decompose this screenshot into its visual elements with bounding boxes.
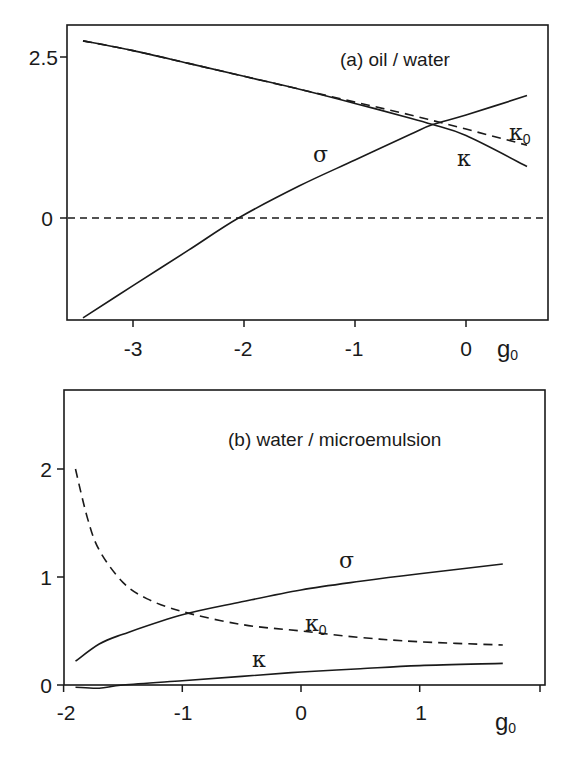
- panel-b-xtick-0: 0: [295, 701, 307, 724]
- panel-b-sigma-label: σ: [339, 548, 354, 573]
- panel-a-sigma-label: σ: [313, 142, 328, 167]
- panel-a: 2.5 0 -3 -2 -1 0 g0 (a) oil / water σ κ …: [29, 25, 548, 363]
- panel-b-ytick-1: 1: [40, 566, 52, 589]
- panel-b-xtick-1: 1: [415, 701, 427, 724]
- panel-b-xtick-neg1: -1: [174, 701, 193, 724]
- panel-a-kappa0-label: κ0: [509, 120, 531, 147]
- panel-b-axis-ticks: [57, 469, 540, 692]
- panel-b-curves: [76, 469, 503, 688]
- panel-a-xtick-neg1: -1: [345, 337, 364, 360]
- panel-a-ytick-2.5: 2.5: [29, 46, 58, 69]
- panel-b-xlabel: g0: [495, 708, 516, 736]
- panel-a-title: (a) oil / water: [340, 49, 450, 70]
- panel-a-curves: [68, 41, 547, 318]
- panel-a-ytick-0: 0: [41, 207, 53, 230]
- panel-a-axis-ticks: [60, 57, 466, 327]
- panel-b-kappa-label: κ: [252, 647, 266, 672]
- series-kappa0-line: [76, 469, 503, 645]
- panel-b-ytick-2: 2: [40, 458, 52, 481]
- figure: 2.5 0 -3 -2 -1 0 g0 (a) oil / water σ κ …: [0, 0, 574, 771]
- panel-a-frame: [67, 25, 548, 320]
- series-sigma-line: [76, 564, 503, 661]
- panel-b: 2 1 0 -2 -1 0 1 g0 (b) water / microemul…: [40, 390, 545, 736]
- panel-b-title: (b) water / microemulsion: [228, 429, 441, 450]
- panel-a-xlabel: g0: [497, 335, 518, 363]
- panel-b-kappa0-label: κ0: [305, 611, 327, 638]
- panel-a-kappa-label: κ: [457, 146, 471, 171]
- panel-a-xtick-neg3: -3: [124, 337, 143, 360]
- series-sigma-line: [83, 96, 527, 318]
- panel-a-xtick-0: 0: [460, 337, 472, 360]
- panel-b-xtick-neg2: -2: [57, 701, 76, 724]
- panel-a-xtick-neg2: -2: [234, 337, 253, 360]
- panel-b-ytick-0: 0: [40, 674, 52, 697]
- series-kappa0-line: [83, 41, 527, 145]
